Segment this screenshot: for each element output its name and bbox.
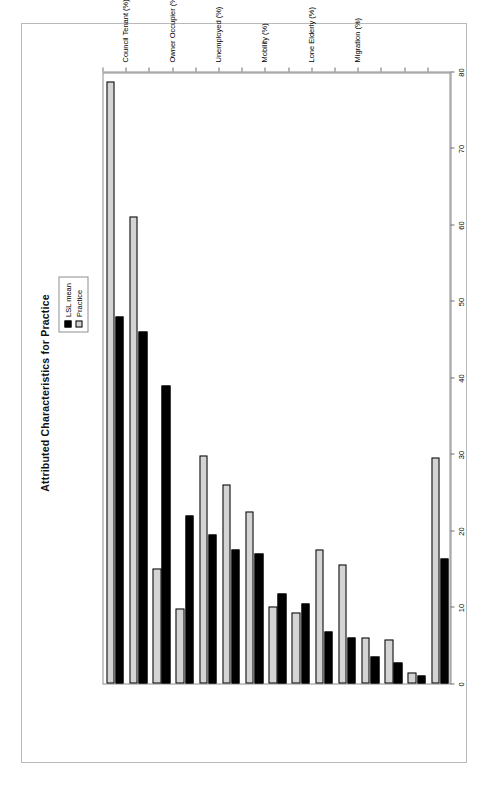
chart-title: Attributed Characteristics for Practice: [38, 25, 50, 760]
legend-label-lsl-mean: LSL mean: [63, 283, 72, 317]
value-axis-tick: [450, 148, 454, 149]
value-axis-tick: [450, 224, 454, 225]
value-axis-tick: [450, 607, 454, 608]
value-axis-tick: [450, 530, 454, 531]
bar-lsl-mean: [277, 593, 285, 683]
bar-lsl-mean: [254, 553, 262, 683]
bar-lsl-mean: [208, 534, 216, 683]
bar-lsl-mean: [231, 549, 239, 683]
value-axis-tick-label: 10: [456, 603, 465, 611]
bar-lsl-mean: [393, 662, 401, 683]
category-axis-tick: [380, 67, 381, 71]
legend-item-practice: Practice: [73, 283, 84, 328]
bar-lsl-mean: [301, 603, 309, 683]
bar-practice: [106, 81, 114, 683]
value-axis-tick-label: 20: [456, 527, 465, 535]
category-axis-tick: [195, 67, 196, 71]
bar-lsl-mean: [440, 558, 448, 683]
category-axis-label: Lone Elderly (%): [306, 7, 315, 62]
bar-practice: [268, 607, 276, 684]
category-axis-tick: [427, 67, 428, 71]
category-axis-label: Unemployed (%): [214, 6, 223, 62]
bar-lsl-mean: [417, 675, 425, 683]
bar-lsl-mean: [370, 656, 378, 683]
category-axis-tick: [241, 67, 242, 71]
category-axis-tick: [102, 67, 103, 71]
value-axis: 01020304050607080: [450, 72, 451, 684]
category-axis: Council Tenant (%)Owner Occupier (%)Unem…: [102, 71, 451, 72]
category-axis-label: Migration (%): [353, 17, 362, 62]
value-axis-tick-label: 50: [456, 297, 465, 305]
category-axis-tick: [288, 67, 289, 71]
bar-practice: [315, 549, 323, 683]
screenshot-page: Attributed Characteristics for Practice …: [0, 0, 488, 785]
value-axis-tick-label: 0: [456, 682, 465, 686]
category-axis-tick: [148, 67, 149, 71]
value-axis-tick: [450, 683, 454, 684]
chart-legend: LSL mean Practice: [58, 276, 88, 333]
bar-practice: [291, 612, 299, 683]
bar-practice: [152, 568, 160, 683]
category-axis-label: Owner Occupier (%): [167, 0, 176, 62]
category-axis-tick: [334, 67, 335, 71]
category-axis-tick: [311, 67, 312, 71]
bar-practice: [431, 457, 439, 683]
bar-practice: [245, 511, 253, 683]
value-axis-tick-label: 60: [456, 221, 465, 229]
bar-practice: [338, 564, 346, 683]
value-axis-tick: [450, 377, 454, 378]
bar-practice: [361, 637, 369, 683]
plot-area: [102, 72, 450, 684]
category-axis-tick: [404, 67, 405, 71]
value-axis-tick-label: 30: [456, 450, 465, 458]
value-axis-tick: [450, 301, 454, 302]
bar-practice: [407, 672, 415, 683]
category-axis-tick: [218, 67, 219, 71]
value-axis-tick-label: 40: [456, 374, 465, 382]
value-axis-tick-label: 80: [456, 68, 465, 76]
bar-lsl-mean: [324, 631, 332, 683]
legend-item-lsl-mean: LSL mean: [62, 283, 73, 328]
bar-lsl-mean: [185, 515, 193, 683]
bar-practice: [129, 216, 137, 683]
category-axis-label: Mobility (%): [260, 23, 269, 62]
value-axis-tick: [450, 454, 454, 455]
bar-practice: [199, 455, 207, 683]
category-axis-tick: [125, 67, 126, 71]
category-axis-tick: [264, 67, 265, 71]
bar-lsl-mean: [161, 385, 169, 683]
category-axis-tick: [172, 67, 173, 71]
rotated-chart-wrapper: Attributed Characteristics for Practice …: [24, 25, 464, 760]
bar-lsl-mean: [138, 331, 146, 683]
bar-practice: [222, 484, 230, 683]
bar-lsl-mean: [347, 637, 355, 683]
bar-practice: [175, 608, 183, 683]
legend-swatch-black-icon: [64, 321, 71, 328]
legend-swatch-grey-icon: [75, 321, 82, 328]
category-axis-tick: [357, 67, 358, 71]
bar-lsl-mean: [115, 316, 123, 683]
legend-label-practice: Practice: [74, 289, 83, 316]
category-axis-label: Council Tenant (%): [121, 0, 130, 62]
bar-series-container: [103, 73, 449, 683]
value-axis-tick-label: 70: [456, 144, 465, 152]
bar-practice: [384, 639, 392, 683]
